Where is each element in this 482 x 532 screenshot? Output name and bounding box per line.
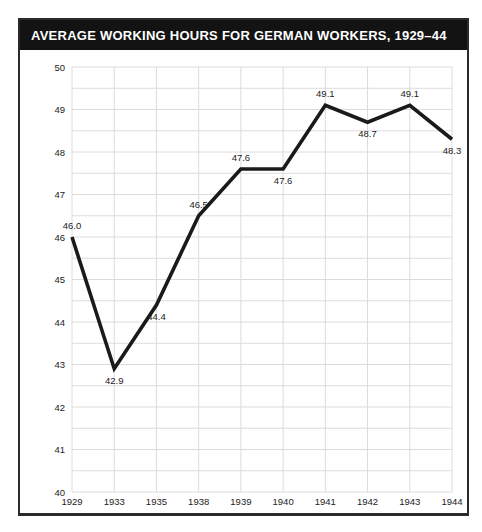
chart-title-bar: AVERAGE WORKING HOURS FOR GERMAN WORKERS…	[20, 20, 467, 50]
y-axis-tick-label: 45	[54, 274, 65, 285]
data-point-label: 49.1	[401, 88, 420, 99]
x-axis-tick-label: 1942	[357, 496, 378, 507]
x-axis-tick-label: 1935	[146, 496, 167, 507]
y-axis-tick-label: 49	[54, 104, 65, 115]
y-axis-tick-label: 41	[54, 444, 65, 455]
y-axis-tick-label: 43	[54, 359, 65, 370]
y-axis-tick-label: 46	[54, 232, 65, 243]
data-point-label: 48.7	[358, 128, 377, 139]
line-chart: 4041424344454647484950192919331935193819…	[20, 50, 467, 513]
y-axis-tick-label: 44	[54, 317, 65, 328]
plot-region: 4041424344454647484950192919331935193819…	[20, 50, 467, 513]
x-axis-tick-label: 1941	[315, 496, 336, 507]
x-axis-tick-label: 1940	[273, 496, 294, 507]
x-axis-tick-label: 1933	[104, 496, 125, 507]
data-point-label: 47.6	[232, 152, 251, 163]
y-axis-tick-label: 47	[54, 189, 65, 200]
data-point-label: 46.0	[63, 220, 82, 231]
data-point-label: 44.4	[147, 311, 166, 322]
y-axis-tick-label: 48	[54, 147, 65, 158]
x-axis-tick-label: 1939	[230, 496, 251, 507]
chart-title: AVERAGE WORKING HOURS FOR GERMAN WORKERS…	[31, 28, 447, 43]
x-axis-tick-label: 1943	[399, 496, 420, 507]
y-axis-tick-label: 50	[54, 62, 65, 73]
x-axis-tick-label: 1938	[188, 496, 209, 507]
data-point-label: 46.5	[189, 199, 208, 210]
data-point-label: 47.6	[274, 175, 293, 186]
data-point-label: 48.3	[443, 145, 462, 156]
x-axis-tick-label: 1929	[61, 496, 82, 507]
x-axis-tick-label: 1944	[441, 496, 462, 507]
chart-card: AVERAGE WORKING HOURS FOR GERMAN WORKERS…	[18, 18, 469, 516]
data-point-label: 42.9	[105, 375, 124, 386]
y-axis-tick-label: 42	[54, 402, 65, 413]
data-point-label: 49.1	[316, 88, 335, 99]
